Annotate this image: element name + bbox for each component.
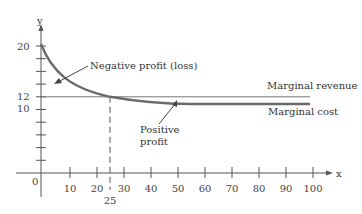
y-tick-label-10: 10 [17, 103, 30, 114]
x-axis-label: x [336, 168, 342, 179]
x-tick-labels: 10 20 30 40 50 60 70 80 90 100 [64, 183, 323, 194]
svg-text:60: 60 [199, 183, 212, 194]
y-axis-label: y [36, 15, 43, 26]
x-axis-arrow [326, 171, 333, 176]
svg-text:50: 50 [172, 183, 185, 194]
marginal-revenue-label: Marginal revenue [267, 80, 358, 91]
svg-text:10: 10 [64, 183, 77, 194]
origin-label: 0 [32, 176, 38, 187]
y-tick-label-12: 12 [17, 91, 30, 102]
negative-profit-arrowhead [54, 78, 62, 84]
marginal-analysis-chart: y x 0 20 12 10 10 20 30 40 50 60 70 [0, 0, 362, 214]
positive-profit-arrow [159, 104, 175, 124]
svg-text:20: 20 [91, 183, 104, 194]
svg-text:100: 100 [303, 183, 322, 194]
svg-text:40: 40 [145, 183, 158, 194]
positive-profit-label-line2: profit [140, 136, 168, 147]
y-tick-label-20: 20 [17, 41, 30, 52]
negative-profit-arrow [58, 66, 88, 82]
marginal-cost-curve [41, 44, 310, 104]
x-label-25: 25 [104, 195, 117, 206]
marginal-cost-label: Marginal cost [268, 106, 338, 117]
positive-profit-label-line1: Positive [140, 124, 180, 135]
svg-text:80: 80 [253, 183, 266, 194]
negative-profit-label: Negative profit (loss) [90, 60, 197, 71]
svg-text:30: 30 [118, 183, 131, 194]
svg-text:70: 70 [226, 183, 239, 194]
svg-text:90: 90 [280, 183, 293, 194]
